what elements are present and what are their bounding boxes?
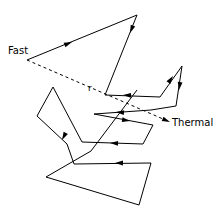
arrow-on-third-leg [123, 93, 131, 98]
arrow-on-eighth-leg [110, 141, 118, 146]
scattering-path [27, 15, 182, 205]
label-thermal: Thermal [172, 118, 213, 128]
diagram-canvas [0, 0, 216, 218]
arrow-on-fifth-leg [177, 82, 183, 91]
arrow-on-second-leg [128, 25, 135, 34]
arrow-on-sixth-leg [116, 110, 124, 115]
label-r: r [88, 84, 92, 93]
arrow-on-bottom-leg [115, 161, 123, 166]
arrow-on-first-leg [64, 40, 73, 47]
arrow-on-thermal-vector [162, 117, 171, 125]
arrow-on-ninth-leg [60, 132, 68, 141]
arrow-on-fourth-leg [166, 75, 175, 84]
neutron-path-diagram: Fast Thermal r [0, 0, 216, 218]
arrowhead-group [60, 25, 183, 166]
displacement-vector-r [27, 60, 170, 122]
label-fast: Fast [8, 46, 28, 56]
